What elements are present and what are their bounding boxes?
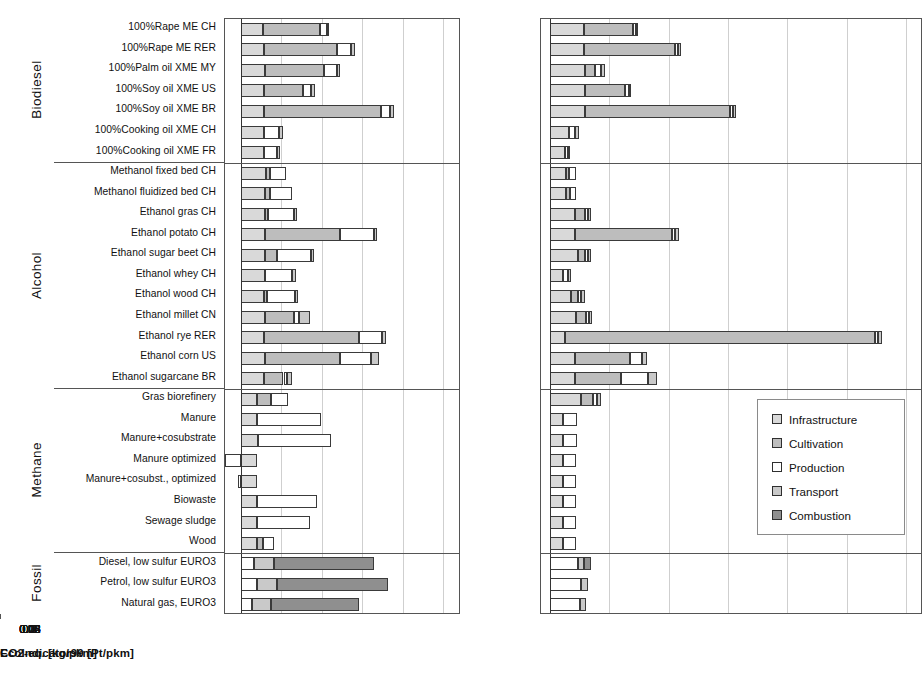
bar-segment-infrastructure[interactable] bbox=[550, 393, 581, 406]
bar-row[interactable] bbox=[541, 84, 921, 97]
bar-segment-cultivation[interactable] bbox=[584, 43, 675, 56]
bar-segment-cultivation[interactable] bbox=[584, 23, 633, 36]
bar-row[interactable] bbox=[225, 434, 459, 447]
bar-segment-infrastructure[interactable] bbox=[241, 372, 264, 385]
bar-segment-cultivation[interactable] bbox=[265, 64, 325, 77]
bar-segment-cultivation[interactable] bbox=[264, 331, 358, 344]
bar-row[interactable] bbox=[541, 126, 921, 139]
bar-row[interactable] bbox=[225, 393, 459, 406]
bar-row[interactable] bbox=[541, 105, 921, 118]
bar-segment-transport[interactable] bbox=[581, 290, 585, 303]
bar-segment-transport[interactable] bbox=[351, 43, 355, 56]
bar-segment-production[interactable] bbox=[630, 352, 642, 365]
bar-segment-cultivation[interactable] bbox=[265, 249, 278, 262]
bar-segment-infrastructure[interactable] bbox=[241, 249, 264, 262]
bar-segment-infrastructure[interactable] bbox=[550, 495, 563, 508]
bar-row[interactable] bbox=[541, 249, 921, 262]
bar-segment-production[interactable] bbox=[225, 454, 241, 467]
bar-segment-production[interactable] bbox=[264, 146, 278, 159]
bar-row[interactable] bbox=[225, 146, 459, 159]
bar-segment-production[interactable] bbox=[359, 331, 382, 344]
bar-segment-infrastructure[interactable] bbox=[550, 269, 563, 282]
bar-segment-production[interactable] bbox=[337, 43, 351, 56]
bar-row[interactable] bbox=[541, 331, 921, 344]
bar-segment-infrastructure[interactable] bbox=[550, 475, 563, 488]
bar-segment-infrastructure[interactable] bbox=[241, 146, 264, 159]
bar-segment-production[interactable] bbox=[563, 475, 575, 488]
bar-segment-infrastructure[interactable] bbox=[241, 228, 264, 241]
bar-segment-production[interactable] bbox=[340, 352, 371, 365]
bar-segment-cultivation[interactable] bbox=[565, 331, 875, 344]
bar-segment-cultivation[interactable] bbox=[264, 43, 337, 56]
bar-segment-transport[interactable] bbox=[648, 372, 657, 385]
bar-segment-cultivation[interactable] bbox=[585, 64, 595, 77]
legend-item[interactable]: Infrastructure bbox=[772, 407, 904, 431]
bar-segment-transport[interactable] bbox=[299, 311, 310, 324]
bar-row[interactable] bbox=[225, 290, 459, 303]
bar-segment-transport[interactable] bbox=[371, 352, 379, 365]
bar-segment-transport[interactable] bbox=[675, 228, 679, 241]
bar-segment-infrastructure[interactable] bbox=[550, 516, 563, 529]
bar-row[interactable] bbox=[541, 311, 921, 324]
bar-segment-infrastructure[interactable] bbox=[550, 64, 585, 77]
bar-row[interactable] bbox=[541, 290, 921, 303]
bar-row[interactable] bbox=[541, 228, 921, 241]
bar-segment-infrastructure[interactable] bbox=[550, 187, 566, 200]
bar-segment-production[interactable] bbox=[263, 537, 274, 550]
legend-item[interactable]: Transport bbox=[772, 479, 904, 503]
bar-segment-cultivation[interactable] bbox=[264, 105, 381, 118]
legend-item[interactable]: Cultivation bbox=[772, 431, 904, 455]
bar-segment-production[interactable] bbox=[257, 495, 317, 508]
bar-segment-transport[interactable] bbox=[581, 578, 588, 591]
bar-segment-transport[interactable] bbox=[678, 43, 682, 56]
bar-row[interactable] bbox=[225, 208, 459, 221]
bar-segment-infrastructure[interactable] bbox=[550, 434, 563, 447]
bar-row[interactable] bbox=[225, 23, 459, 36]
bar-segment-production[interactable] bbox=[268, 208, 294, 221]
bar-segment-infrastructure[interactable] bbox=[241, 516, 257, 529]
bar-segment-transport[interactable] bbox=[257, 578, 276, 591]
bar-segment-production[interactable] bbox=[563, 516, 575, 529]
bar-segment-transport[interactable] bbox=[337, 64, 341, 77]
bar-segment-transport[interactable] bbox=[327, 23, 329, 36]
bar-segment-infrastructure[interactable] bbox=[550, 331, 565, 344]
bar-segment-transport[interactable] bbox=[279, 126, 283, 139]
bar-segment-infrastructure[interactable] bbox=[241, 413, 257, 426]
bar-segment-infrastructure[interactable] bbox=[241, 454, 257, 467]
bar-segment-transport[interactable] bbox=[878, 331, 882, 344]
bar-segment-infrastructure[interactable] bbox=[550, 352, 575, 365]
bar-segment-cultivation[interactable] bbox=[264, 84, 303, 97]
bar-segment-cultivation[interactable] bbox=[264, 372, 283, 385]
bar-segment-infrastructure[interactable] bbox=[241, 352, 264, 365]
bar-row[interactable] bbox=[541, 372, 921, 385]
bar-segment-production[interactable] bbox=[563, 495, 575, 508]
bar-segment-transport[interactable] bbox=[382, 331, 386, 344]
bar-segment-production[interactable] bbox=[257, 413, 321, 426]
bar-segment-combustion[interactable] bbox=[274, 557, 374, 570]
bar-segment-cultivation[interactable] bbox=[576, 311, 586, 324]
bar-segment-cultivation[interactable] bbox=[571, 290, 578, 303]
bar-segment-infrastructure[interactable] bbox=[241, 43, 264, 56]
bar-segment-infrastructure[interactable] bbox=[241, 208, 264, 221]
bar-row[interactable] bbox=[541, 598, 921, 611]
bar-segment-production[interactable] bbox=[267, 290, 295, 303]
bar-segment-infrastructure[interactable] bbox=[550, 290, 571, 303]
bar-row[interactable] bbox=[541, 269, 921, 282]
bar-segment-transport[interactable] bbox=[568, 146, 570, 159]
bar-segment-infrastructure[interactable] bbox=[550, 228, 575, 241]
bar-segment-cultivation[interactable] bbox=[575, 228, 671, 241]
bar-segment-transport[interactable] bbox=[374, 228, 377, 241]
bar-segment-production[interactable] bbox=[241, 578, 257, 591]
bar-segment-cultivation[interactable] bbox=[265, 311, 294, 324]
bar-row[interactable] bbox=[225, 269, 459, 282]
bar-segment-production[interactable] bbox=[550, 598, 580, 611]
bar-row[interactable] bbox=[541, 578, 921, 591]
bar-row[interactable] bbox=[225, 187, 459, 200]
bar-segment-production[interactable] bbox=[270, 167, 286, 180]
bar-segment-transport[interactable] bbox=[597, 393, 601, 406]
bar-segment-production[interactable] bbox=[381, 105, 390, 118]
bar-segment-production[interactable] bbox=[258, 434, 331, 447]
bar-segment-infrastructure[interactable] bbox=[241, 23, 263, 36]
bar-segment-production[interactable] bbox=[570, 187, 577, 200]
bar-row[interactable] bbox=[225, 352, 459, 365]
